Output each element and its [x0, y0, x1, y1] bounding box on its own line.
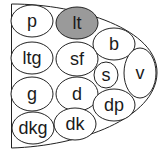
node-dk: dk — [54, 108, 96, 140]
node-s: s — [94, 62, 118, 88]
node-label: v — [136, 63, 145, 83]
cluster-diagram: pltbltgsfsvgddpdkgdk — [0, 0, 162, 154]
node-label: g — [27, 84, 37, 104]
node-dkg: dkg — [12, 112, 54, 144]
node-label: dk — [65, 114, 85, 134]
node-dp: dp — [93, 89, 135, 121]
node-ltg: ltg — [11, 42, 53, 74]
node-label: d — [72, 84, 82, 104]
node-sf: sf — [56, 42, 98, 76]
node-label: dkg — [18, 118, 47, 138]
node-lt: lt — [56, 7, 98, 39]
node-g: g — [11, 77, 53, 111]
node-d: d — [56, 77, 98, 111]
node-p: p — [11, 5, 53, 37]
node-label: dp — [104, 95, 124, 115]
node-label: p — [27, 11, 37, 31]
node-label: sf — [70, 49, 85, 69]
node-v: v — [124, 48, 156, 98]
node-label: lt — [73, 13, 82, 33]
node-label: ltg — [22, 48, 41, 68]
node-label: b — [109, 34, 119, 54]
node-label: s — [102, 65, 111, 85]
